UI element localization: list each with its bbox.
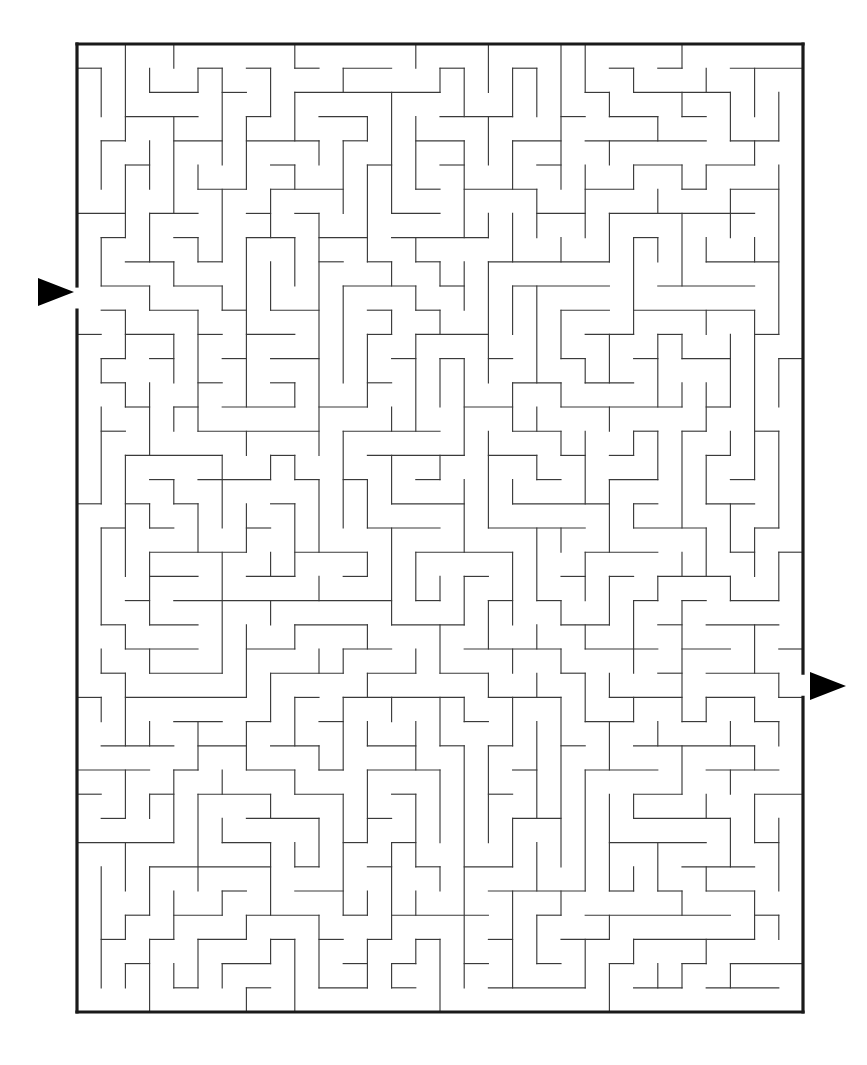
- page-background: [0, 0, 867, 1065]
- maze-canvas: [0, 0, 867, 1065]
- maze-page: [0, 0, 867, 1065]
